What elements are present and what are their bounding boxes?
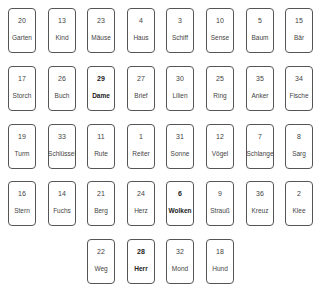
card-kreuz[interactable]: 36Kreuz — [246, 181, 274, 226]
card-sense[interactable]: 10Sense — [206, 8, 234, 53]
card-name: Herr — [124, 265, 158, 272]
card-number: 16 — [9, 190, 35, 197]
card-number: 24 — [128, 190, 154, 197]
card-number: 14 — [49, 190, 75, 197]
card-number: 6 — [167, 190, 193, 197]
card-sarg[interactable]: 8Sarg — [285, 124, 313, 169]
card-rute[interactable]: 11Rute — [87, 124, 115, 169]
card-number: 21 — [88, 190, 114, 197]
card-schlüssel[interactable]: 33Schlüssel — [48, 124, 76, 169]
card-name: Storch — [5, 92, 39, 99]
card-schlange[interactable]: 7Schlange — [246, 124, 274, 169]
card-anker[interactable]: 35Anker — [246, 66, 274, 111]
card-number: 20 — [9, 17, 35, 24]
card-name: Bär — [282, 34, 316, 41]
card-name: Baum — [243, 34, 277, 41]
card-name: Weg — [84, 265, 118, 272]
card-kind[interactable]: 13Kind — [48, 8, 76, 53]
card-herr[interactable]: 28Herr — [127, 239, 155, 284]
card-name: Strauß — [203, 207, 237, 214]
card-number: 36 — [247, 190, 273, 197]
card-number: 19 — [9, 133, 35, 140]
card-name: Fuchs — [45, 207, 79, 214]
card-name: Haus — [124, 34, 158, 41]
card-name: Fische — [282, 92, 316, 99]
card-name: Turm — [5, 150, 39, 157]
card-weg[interactable]: 22Weg — [87, 239, 115, 284]
card-number: 2 — [286, 190, 312, 197]
card-reiter[interactable]: 1Reiter — [127, 124, 155, 169]
card-stern[interactable]: 16Stern — [8, 181, 36, 226]
card-number: 15 — [286, 17, 312, 24]
card-name: Vögel — [203, 150, 237, 157]
card-name: Mond — [163, 265, 197, 272]
card-name: Garten — [5, 34, 39, 41]
card-baum[interactable]: 5Baum — [246, 8, 274, 53]
card-berg[interactable]: 21Berg — [87, 181, 115, 226]
card-number: 17 — [9, 75, 35, 82]
card-number: 1 — [128, 133, 154, 140]
card-name: Berg — [84, 207, 118, 214]
card-name: Herz — [124, 207, 158, 214]
card-buch[interactable]: 26Buch — [48, 66, 76, 111]
card-ring[interactable]: 25Ring — [206, 66, 234, 111]
card-name: Klee — [282, 207, 316, 214]
card-hund[interactable]: 18Hund — [206, 239, 234, 284]
card-strauß[interactable]: 9Strauß — [206, 181, 234, 226]
card-number: 33 — [49, 133, 75, 140]
card-number: 29 — [88, 75, 114, 82]
card-number: 8 — [286, 133, 312, 140]
card-name: Buch — [45, 92, 79, 99]
card-number: 31 — [167, 133, 193, 140]
card-klee[interactable]: 2Klee — [285, 181, 313, 226]
card-name: Stern — [5, 207, 39, 214]
card-sonne[interactable]: 31Sonne — [166, 124, 194, 169]
card-number: 10 — [207, 17, 233, 24]
card-name: Sonne — [163, 150, 197, 157]
card-name: Rute — [84, 150, 118, 157]
card-name: Sense — [203, 34, 237, 41]
card-number: 34 — [286, 75, 312, 82]
card-wolken[interactable]: 6Wolken — [166, 181, 194, 226]
card-mond[interactable]: 32Mond — [166, 239, 194, 284]
card-number: 26 — [49, 75, 75, 82]
card-name: Kind — [45, 34, 79, 41]
card-number: 4 — [128, 17, 154, 24]
card-number: 18 — [207, 248, 233, 255]
card-name: Schlüssel — [45, 150, 79, 157]
card-name: Wolken — [163, 207, 197, 214]
card-mäuse[interactable]: 23Mäuse — [87, 8, 115, 53]
card-schiff[interactable]: 3Schiff — [166, 8, 194, 53]
card-name: Mäuse — [84, 34, 118, 41]
card-garten[interactable]: 20Garten — [8, 8, 36, 53]
card-herz[interactable]: 24Herz — [127, 181, 155, 226]
card-name: Ring — [203, 92, 237, 99]
card-number: 5 — [247, 17, 273, 24]
card-name: Brief — [124, 92, 158, 99]
card-name: Hund — [203, 265, 237, 272]
card-storch[interactable]: 17Storch — [8, 66, 36, 111]
card-name: Lilien — [163, 92, 197, 99]
card-name: Dame — [84, 92, 118, 99]
card-number: 23 — [88, 17, 114, 24]
card-lilien[interactable]: 30Lilien — [166, 66, 194, 111]
card-vögel[interactable]: 12Vögel — [206, 124, 234, 169]
card-haus[interactable]: 4Haus — [127, 8, 155, 53]
card-number: 30 — [167, 75, 193, 82]
card-number: 3 — [167, 17, 193, 24]
card-name: Schlange — [243, 150, 277, 157]
card-fuchs[interactable]: 14Fuchs — [48, 181, 76, 226]
card-fische[interactable]: 34Fische — [285, 66, 313, 111]
card-bär[interactable]: 15Bär — [285, 8, 313, 53]
card-name: Sarg — [282, 150, 316, 157]
card-number: 28 — [128, 248, 154, 255]
card-number: 35 — [247, 75, 273, 82]
card-number: 32 — [167, 248, 193, 255]
card-name: Kreuz — [243, 207, 277, 214]
card-name: Reiter — [124, 150, 158, 157]
card-dame[interactable]: 29Dame — [87, 66, 115, 111]
card-number: 9 — [207, 190, 233, 197]
card-name: Schiff — [163, 34, 197, 41]
card-brief[interactable]: 27Brief — [127, 66, 155, 111]
card-turm[interactable]: 19Turm — [8, 124, 36, 169]
